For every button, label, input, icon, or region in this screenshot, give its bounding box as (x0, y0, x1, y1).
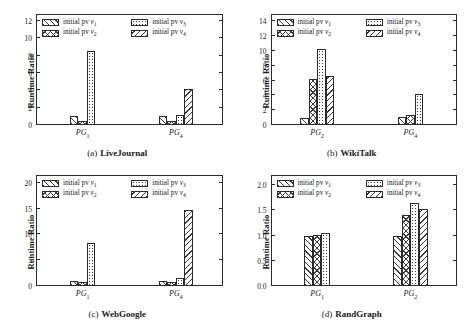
bar-PG4-v2 (406, 115, 415, 125)
bar-PG4-v1 (159, 116, 168, 125)
legend-item-v2[interactable]: initial pv v2 (277, 28, 362, 37)
y-tick-label: 0 (263, 121, 267, 130)
legend-c: initial pv v1initial pv v3initial pv v2i… (42, 179, 217, 199)
legend-swatch-backward-diagonal-hatch-icon (42, 180, 59, 187)
legend-swatch-crosshatch-icon (277, 191, 294, 198)
y-tick-label: 10 (25, 34, 33, 43)
chart-panel-a: Runtime Ratio024681012PG1PG4initial pv v… (0, 0, 235, 161)
y-tick-label: 1.5 (257, 206, 266, 215)
y-tick-label: 8 (263, 61, 267, 70)
chart-panel-b: Runtime Ratio02468101214PG2PG4initial pv… (235, 0, 469, 161)
y-tick-label: 5 (28, 256, 32, 265)
legend-label-v2: initial pv v2 (298, 28, 332, 37)
x-axis-label-PG2: PG2 (310, 128, 324, 139)
chart-caption-b: (b)WikiTalk (235, 148, 469, 158)
legend-swatch-dotted-icon (366, 180, 383, 187)
bar-PG2-v2 (309, 79, 318, 125)
legend-label-v2: initial pv v2 (63, 28, 97, 37)
legend-item-v1[interactable]: initial pv v1 (277, 179, 362, 188)
plot-area-c: 05101520PG1PG4initial pv v1initial pv v3… (36, 175, 223, 286)
bar-PG4-v3 (415, 94, 424, 125)
x-axis-label-PG2: PG2 (404, 289, 418, 300)
bar-PG4-v4 (184, 89, 193, 125)
legend-item-v1[interactable]: initial pv v1 (277, 18, 362, 27)
legend-item-v4[interactable]: initial pv v4 (131, 28, 216, 37)
legend-swatch-dotted-icon (131, 19, 148, 26)
legend-item-v1[interactable]: initial pv v1 (42, 179, 127, 188)
legend-a: initial pv v1initial pv v3initial pv v2i… (42, 18, 217, 38)
bar-PG2-v1 (300, 118, 309, 125)
caption-title: RandGraph (335, 309, 382, 319)
y-tick-label: 12 (259, 32, 267, 41)
x-axis-label-PG1: PG1 (76, 289, 90, 300)
legend-item-v4[interactable]: initial pv v4 (366, 189, 451, 198)
y-tick-label: 10 (25, 230, 33, 239)
y-tick-label: 4 (28, 86, 32, 95)
legend-swatch-forward-diagonal-hatch-icon (366, 191, 383, 198)
legend-item-v3[interactable]: initial pv v3 (131, 179, 216, 188)
y-tick-label: 0.5 (257, 256, 266, 265)
caption-tag: (c) (89, 309, 99, 319)
chart-caption-c: (c)WebGoogle (0, 309, 235, 319)
bar-PG1-v3 (321, 233, 330, 286)
legend-label-v4: initial pv v4 (152, 189, 186, 198)
legend-item-v4[interactable]: initial pv v4 (131, 189, 216, 198)
y-tick-label: 2 (263, 106, 267, 115)
bar-PG4-v3 (176, 115, 185, 125)
bar-PG4-v3 (176, 278, 185, 286)
legend-item-v3[interactable]: initial pv v3 (366, 18, 451, 27)
legend-swatch-backward-diagonal-hatch-icon (42, 19, 59, 26)
plot-area-d: 0.00.51.01.52.0PG1PG2initial pv v1initia… (271, 175, 458, 286)
y-tick-label: 14 (259, 17, 267, 26)
x-axis-label-PG1: PG1 (76, 128, 90, 139)
bar-PG1-v2 (78, 121, 87, 125)
legend-swatch-dotted-icon (366, 19, 383, 26)
y-tick-label: 6 (28, 68, 32, 77)
y-tick-label: 6 (263, 76, 267, 85)
bar-PG1-v3 (87, 243, 96, 286)
legend-item-v3[interactable]: initial pv v3 (366, 179, 451, 188)
legend-label-v1: initial pv v1 (298, 18, 332, 27)
legend-item-v2[interactable]: initial pv v2 (42, 189, 127, 198)
caption-tag: (b) (327, 148, 338, 158)
y-tick-label: 4 (263, 91, 267, 100)
y-tick-label: 0 (28, 121, 32, 130)
legend-label-v3: initial pv v3 (152, 18, 186, 27)
caption-tag: (a) (87, 148, 97, 158)
legend-item-v2[interactable]: initial pv v2 (42, 28, 127, 37)
y-tick-label: 0 (28, 282, 32, 291)
bar-PG1-v1 (70, 281, 79, 286)
y-tick-label: 15 (25, 204, 33, 213)
caption-title: WebGoogle (102, 309, 147, 319)
y-tick-label: 0.0 (257, 282, 266, 291)
plot-area-b: 02468101214PG2PG4initial pv v1initial pv… (271, 14, 458, 125)
legend-label-v4: initial pv v4 (387, 189, 421, 198)
legend-label-v4: initial pv v4 (387, 28, 421, 37)
bar-PG4-v4 (184, 210, 193, 286)
legend-item-v2[interactable]: initial pv v2 (277, 189, 362, 198)
legend-swatch-crosshatch-icon (42, 191, 59, 198)
legend-swatch-crosshatch-icon (277, 30, 294, 37)
y-tick-label: 10 (259, 47, 267, 56)
bar-PG1-v2 (78, 282, 87, 286)
chart-caption-d: (d)RandGraph (235, 309, 469, 319)
legend-label-v3: initial pv v3 (152, 179, 186, 188)
bar-PG2-v1 (393, 236, 402, 286)
legend-item-v1[interactable]: initial pv v1 (42, 18, 127, 27)
caption-title: LiveJournal (100, 148, 147, 158)
bar-PG2-v3 (410, 203, 419, 286)
legend-swatch-crosshatch-icon (42, 30, 59, 37)
bar-PG1-v2 (313, 235, 322, 286)
legend-item-v4[interactable]: initial pv v4 (366, 28, 451, 37)
legend-swatch-forward-diagonal-hatch-icon (131, 30, 148, 37)
figure-grid: Runtime Ratio024681012PG1PG4initial pv v… (0, 0, 469, 322)
bar-PG2-v3 (317, 49, 326, 125)
legend-item-v3[interactable]: initial pv v3 (131, 18, 216, 27)
bar-PG2-v4 (419, 209, 428, 286)
legend-label-v2: initial pv v2 (63, 189, 97, 198)
legend-swatch-dotted-icon (131, 180, 148, 187)
legend-label-v4: initial pv v4 (152, 28, 186, 37)
y-tick-label: 8 (28, 51, 32, 60)
legend-swatch-backward-diagonal-hatch-icon (277, 180, 294, 187)
y-tick-label: 2 (28, 103, 32, 112)
